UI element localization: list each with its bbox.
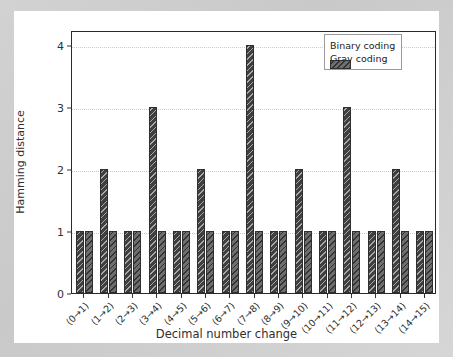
legend-swatch-gray-coding [330, 60, 351, 69]
bar-gray-3 [158, 231, 166, 293]
bar-gray-0 [85, 231, 93, 293]
bar-gray-12 [377, 231, 385, 293]
bar-gray-8 [279, 231, 287, 293]
x-tick-mark-13 [400, 294, 401, 298]
y-axis-label: Hamming distance [14, 110, 27, 214]
figure-canvas: Hamming distance 01234 (0→1)(1→2)(2→3)(3… [14, 11, 439, 343]
bar-gray-2 [133, 231, 141, 293]
x-tick-mark-1 [108, 294, 109, 298]
bar-gray-7 [255, 231, 263, 293]
bar-binary-1 [100, 169, 108, 293]
x-tick-mark-9 [302, 294, 303, 298]
bar-gray-5 [206, 231, 214, 293]
bar-binary-8 [270, 231, 278, 293]
x-tick-mark-4 [181, 294, 182, 298]
bar-binary-11 [343, 107, 351, 293]
x-axis-label: Decimal number change [14, 327, 439, 341]
legend[interactable]: Binary coding Gray coding [324, 34, 402, 70]
bar-binary-13 [392, 169, 400, 293]
bar-gray-9 [304, 231, 312, 293]
x-tick-mark-2 [132, 294, 133, 298]
bar-binary-6 [222, 231, 230, 293]
bar-binary-3 [149, 107, 157, 293]
x-tick-mark-0 [83, 294, 84, 298]
bar-binary-10 [319, 231, 327, 293]
y-tick-label-2: 2 [46, 164, 64, 177]
bar-gray-10 [328, 231, 336, 293]
bar-gray-1 [109, 231, 117, 293]
bar-gray-11 [352, 231, 360, 293]
bar-binary-12 [368, 231, 376, 293]
legend-item-gray-coding[interactable]: Gray coding [330, 52, 395, 65]
figure-mount: Hamming distance 01234 (0→1)(1→2)(2→3)(3… [0, 0, 453, 357]
x-tick-mark-3 [156, 294, 157, 298]
y-tick-label-1: 1 [46, 226, 64, 239]
y-tick-label-3: 3 [46, 102, 64, 115]
x-tick-mark-10 [327, 294, 328, 298]
x-tick-mark-11 [351, 294, 352, 298]
x-tick-mark-7 [254, 294, 255, 298]
bar-binary-0 [76, 231, 84, 293]
legend-label-binary-coding: Binary coding [330, 40, 395, 51]
plot-area [71, 31, 436, 294]
x-tick-mark-14 [424, 294, 425, 298]
bar-gray-14 [425, 231, 433, 293]
bar-gray-13 [401, 231, 409, 293]
x-tick-mark-6 [229, 294, 230, 298]
bar-gray-4 [182, 231, 190, 293]
y-tick-label-4: 4 [46, 40, 64, 53]
x-tick-mark-5 [205, 294, 206, 298]
x-tick-mark-8 [278, 294, 279, 298]
bar-binary-9 [295, 169, 303, 293]
bar-binary-14 [416, 231, 424, 293]
x-tick-mark-12 [375, 294, 376, 298]
bar-binary-7 [246, 45, 254, 293]
y-tick-label-0: 0 [46, 288, 64, 301]
bar-binary-4 [173, 231, 181, 293]
bar-gray-6 [231, 231, 239, 293]
bar-binary-2 [124, 231, 132, 293]
bars-layer [72, 32, 435, 293]
bar-binary-5 [197, 169, 205, 293]
legend-item-binary-coding[interactable]: Binary coding [330, 39, 395, 52]
